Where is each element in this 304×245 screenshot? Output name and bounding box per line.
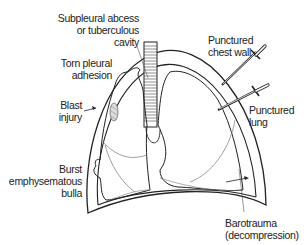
label-burst-emphysematous-bulla: Burst emphysematous bulla (9, 163, 82, 199)
arrow-icon (92, 106, 96, 110)
label-punctured-chest-wall: Punctured chest wall (208, 34, 253, 58)
label-blast-injury: Blast injury (59, 99, 82, 123)
chest-wall-outer (87, 50, 266, 213)
label-barotrauma: Barotrauma (decompression) (225, 217, 299, 241)
barotrauma-arrow (226, 178, 247, 182)
arrow-icon (244, 176, 249, 180)
label-subpleural-abscess: Subpleural abcess or tuberculous cavity (58, 12, 139, 48)
blast-injury-area (110, 103, 118, 121)
label-punctured-lung: Punctured lung (249, 104, 294, 128)
left-fissure-upper (103, 142, 147, 157)
left-fissure-lower (105, 145, 135, 192)
right-fissure (190, 120, 235, 182)
left-lung (94, 68, 150, 200)
label-torn-pleural-adhesion: Torn pleural adhesion (61, 57, 112, 81)
right-lung (158, 71, 243, 190)
mediastinum (146, 127, 160, 143)
